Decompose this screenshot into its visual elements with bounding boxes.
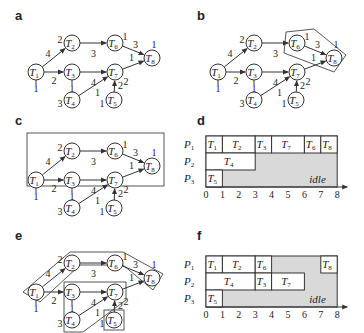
task-node-T6: 1T6 [107,31,128,51]
node-weight-T4: 3 [58,98,63,109]
processor-label-P2: P2 [183,275,195,289]
edge-weight-T4-T7: 1 [277,87,282,98]
edge-weight-T6-T8: 3 [133,39,138,50]
node-weight-T7: 2 [306,76,311,87]
axis-tick-4: 4 [269,189,274,200]
edge-weight-T5-T7: 2 [300,80,305,91]
node-weight-T6: 1 [123,139,128,150]
node-weight-T5: 1 [100,318,105,329]
task-node-T8: 1T8 [326,39,342,66]
edge-weight-T5-T7: 2 [118,80,123,91]
axis-tick-6: 6 [302,189,307,200]
node-weight-T2: 2 [58,142,63,153]
task-node-T5: 1T5 [100,92,123,109]
node-weight-T1: 1 [216,83,221,94]
figure-canvas: 423412311T12T21T33T41T51T62T71T842341231… [0,0,364,333]
task-graph-b: 423412311T12T21T33T41T51T62T71T8 [210,29,346,109]
edge-weight-T6-T8: 3 [133,147,138,158]
node-weight-T2: 2 [240,34,245,45]
task-node-T8: 1T8 [144,39,160,66]
node-weight-T7: 2 [124,296,129,307]
node-weight-T8: 1 [334,39,339,50]
gantt-chart-d: T1T2T3T7T6T8T4T5P1P2P3idle012345678 [183,136,347,200]
task-node-T1: 1T1 [28,172,44,202]
axis-tick-7: 7 [318,189,323,200]
task-node-T1: 1T1 [28,284,44,314]
axis-tick-5: 5 [286,189,291,200]
edge-weight-T1-T3: 2 [52,183,57,194]
node-weight-T1: 1 [34,83,39,94]
task-node-T4: 3T4 [58,312,81,329]
node-weight-T4: 3 [240,98,245,109]
edge-weight-T1-T3: 2 [234,75,239,86]
edge-weight-T1-T2: 4 [46,156,51,167]
edge-weight-T6-T8: 3 [315,39,320,50]
node-weight-T8: 1 [152,39,157,50]
edge-weight-T2-T6: 3 [91,48,96,59]
edge-weight-T1-T2: 4 [228,48,233,59]
axis-tick-7: 7 [318,309,323,320]
node-weight-T6: 1 [305,31,310,42]
edge-weight-T7-T8: 1 [311,52,316,63]
node-weight-T8: 1 [152,259,157,270]
edge-weight-T4-T7: 1 [95,195,100,206]
edge-weight-T1-T3: 2 [52,295,57,306]
edge-weight-T2-T6: 3 [273,48,278,59]
axis-tick-5: 5 [286,309,291,320]
edge-weight-T2-T6: 3 [91,268,96,279]
node-weight-T1: 1 [34,303,39,314]
processor-label-P3: P3 [183,172,195,186]
task-node-T2: 2T2 [58,254,81,271]
processor-label-P3: P3 [183,292,195,306]
task-node-T6: 1T6 [107,139,128,159]
node-weight-T5: 1 [282,98,287,109]
axis-tick-2: 2 [236,189,241,200]
node-weight-T2: 2 [58,34,63,45]
edge-weight-T5-T7: 2 [118,188,123,199]
edge-weight-T4-T7: 1 [95,307,100,318]
node-weight-T4: 3 [58,318,63,329]
task-graph-e: 423412311T12T21T33T41T51T62T71T8 [23,251,163,332]
processor-label-P2: P2 [183,155,195,169]
edge-weight-T7-T8: 1 [129,160,134,171]
node-weight-T6: 1 [123,31,128,42]
edge-weight-T1-T2: 4 [46,48,51,59]
axis-tick-1: 1 [220,189,225,200]
task-node-T6: 1T6 [107,251,128,271]
task-node-T2: 2T2 [58,34,81,51]
node-weight-T5: 1 [100,98,105,109]
task-node-T5: 1T5 [100,200,123,217]
axis-tick-6: 6 [302,309,307,320]
axis-tick-1: 1 [220,309,225,320]
node-weight-T8: 1 [152,147,157,158]
task-node-T6: 1T6 [289,31,310,51]
axis-tick-0: 0 [204,189,209,200]
axis-tick-0: 0 [204,309,209,320]
task-node-T4: 3T4 [58,200,81,217]
edge-weight-T5-T7: 2 [118,300,123,311]
task-node-T2: 2T2 [240,34,263,51]
task-node-T1: 1T1 [210,64,226,94]
task-node-T3: 1T3 [246,64,262,94]
task-node-T3: 1T3 [64,64,80,94]
edge-weight-T6-T8: 3 [133,259,138,270]
axis-tick-4: 4 [269,309,274,320]
node-weight-T7: 2 [124,76,129,87]
gantt-chart-f: T1T2T6T8T4T3T7T5P1P2P3idle012345678 [183,256,347,320]
task-node-T8: 1T8 [144,147,160,174]
task-node-T2: 2T2 [58,142,81,159]
task-node-T3: 1T3 [64,284,80,314]
task-node-T3: 1T3 [64,172,80,202]
edge-weight-T1-T3: 2 [52,75,57,86]
task-node-T5: 1T5 [282,92,305,109]
edge-weight-T7-T8: 1 [129,52,134,63]
processor-label-P1: P1 [183,258,195,272]
axis-tick-3: 3 [253,309,258,320]
edge-weight-T4-T7: 1 [95,87,100,98]
axis-tick-8: 8 [335,309,340,320]
axis-tick-3: 3 [253,189,258,200]
axis-tick-2: 2 [236,309,241,320]
task-node-T4: 3T4 [58,92,81,109]
idle-label: idle [309,173,326,185]
task-node-T1: 1T1 [28,64,44,94]
